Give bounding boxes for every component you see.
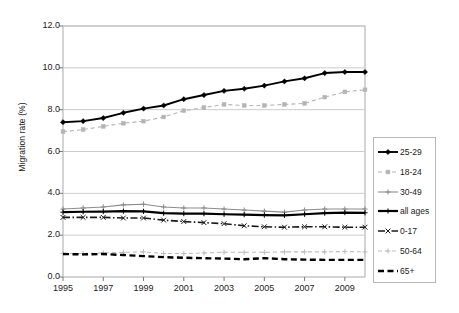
legend-swatch-icon	[377, 264, 399, 278]
x-tick-label: 2003	[202, 283, 246, 293]
legend-swatch-icon	[377, 165, 399, 179]
legend-swatch-icon	[377, 145, 399, 159]
legend-swatch-icon	[377, 185, 399, 199]
legend-label: all ages	[400, 206, 429, 216]
y-tick-label: 10.0	[26, 63, 60, 72]
migration-rate-line-chart: Migration rate (%) 0.02.04.06.08.010.012…	[0, 0, 459, 313]
legend-label: 25-29	[400, 147, 422, 157]
legend-item-0-17[interactable]: 0-17	[374, 221, 437, 241]
y-tick-label: 4.0	[26, 188, 60, 197]
legend-label: 30-49	[400, 187, 422, 197]
legend-item-65-[interactable]: 65+	[374, 261, 437, 281]
x-tick-label: 1997	[81, 283, 125, 293]
legend-swatch-icon	[377, 224, 399, 238]
x-tick-label: 1995	[41, 283, 85, 293]
y-tick-label: 12.0	[26, 21, 60, 30]
x-tick-label: 2001	[162, 283, 206, 293]
x-tick-label: 2009	[323, 283, 367, 293]
legend-item-30-49[interactable]: 30-49	[374, 182, 437, 202]
legend-swatch-icon	[377, 204, 399, 218]
y-tick-label: 2.0	[26, 230, 60, 239]
legend-label: 0-17	[400, 226, 417, 236]
legend-item-50-64[interactable]: 50-64	[374, 241, 437, 261]
y-tick-label: 8.0	[26, 105, 60, 114]
x-tick-label: 2007	[283, 283, 327, 293]
legend-swatch-icon	[377, 244, 399, 258]
legend-label: 65+	[400, 266, 414, 276]
legend-item-all-ages[interactable]: all ages	[374, 201, 437, 221]
chart-legend: 25-2918-2430-49all ages0-1750-6465+	[373, 137, 436, 283]
x-tick-label: 1999	[122, 283, 166, 293]
legend-item-18-24[interactable]: 18-24	[374, 162, 437, 182]
x-tick-label: 2005	[242, 283, 286, 293]
y-tick-label: 0.0	[26, 272, 60, 281]
legend-label: 18-24	[400, 167, 422, 177]
y-tick-label: 6.0	[26, 147, 60, 156]
y-axis-tick-labels: 0.02.04.06.08.010.012.0	[24, 0, 60, 313]
legend-item-25-29[interactable]: 25-29	[374, 142, 437, 162]
legend-label: 50-64	[400, 246, 422, 256]
